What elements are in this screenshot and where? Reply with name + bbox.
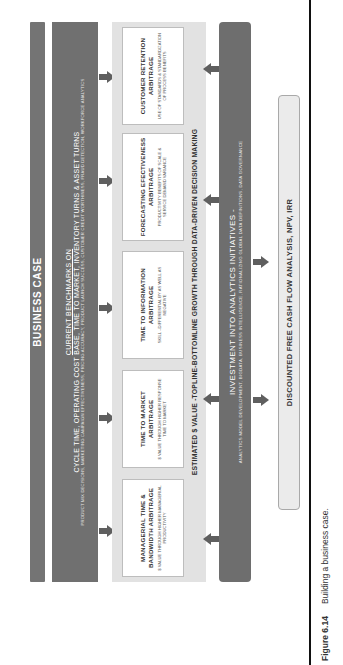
arbitrage-box-customer-retention: CUSTOMER RETENTION ARBITRAGE USE OF STAN…	[122, 27, 184, 125]
arrow-up-icon	[203, 63, 219, 75]
arbitrage-box-title: MANAGERIAL TIME & BANDWIDTH ARBITRAGE	[139, 480, 155, 576]
current-benchmarks-band: CURRENT BENCHMARKS ON CYCLE TIME, OPERAT…	[52, 22, 98, 582]
arbitrage-box-title: FORECASTING EFECTIVENESS ARBITRAGE	[139, 134, 155, 240]
figure-caption-text: Building a business case.	[320, 508, 330, 604]
arrow-up-icon	[203, 393, 219, 405]
dcf-analysis-label: DISCOUNTED FREE CASH FLOW ANALYSIS, NPV,…	[285, 199, 294, 406]
investment-analytics-band: INVESTMENT INTO ANALYTICS INITIATIVES - …	[219, 22, 251, 582]
arbitrage-box-subtitle: USE OF STANDARDS & STANDARDIZATION OF PR…	[157, 28, 168, 124]
arbitrage-box-subtitle: $ VALUE THROUGH HIGHER MANAGERIAL PRODUC…	[157, 480, 168, 576]
benchmarks-heading: CURRENT BENCHMARKS ON	[65, 249, 72, 355]
arbitrage-box-subtitle: $ VALUE THROUGH HIGHER RESPONSE TIME TO …	[157, 371, 168, 467]
benchmarks-analytics-areas: PRODUCT MIX DECISIONS, MARKETING CAMPAIG…	[80, 79, 86, 526]
arrow-up-icon	[203, 533, 219, 545]
arrow-down-icon	[253, 394, 269, 406]
estimated-value-label-row: ESTIMATED $ VALUE -TOPLINE-BOTTOMLINE GR…	[186, 22, 202, 582]
arbitrage-box-time-to-information: TIME TO INFORMATION ARBITRAGE SKILL –DIF…	[122, 251, 184, 359]
caption-rule	[309, 0, 311, 665]
figure-caption: Figure 6.14 Building a business case.	[318, 508, 332, 661]
arbitrage-box-title: CUSTOMER RETENTION ARBITRAGE	[139, 28, 155, 124]
investment-heading: INVESTMENT INTO ANALYTICS INITIATIVES -	[228, 209, 237, 395]
figure-number: Figure 6.14	[320, 616, 330, 661]
business-case-title-band: BUSINESS CASE	[30, 22, 45, 582]
arbitrage-box-title: TIME TO INFORMATION ARBITRAGE	[139, 252, 155, 358]
arbitrage-box-forecasting-effectiveness: FORECASTING EFECTIVENESS ARBITRAGE PRODU…	[122, 133, 184, 241]
investment-detail: ANALYTICS MODEL DEVELOPMENT, BIGDATA, BU…	[238, 141, 243, 464]
arbitrage-box-title: TIME TO MARKET ARBITRAGE	[139, 371, 155, 467]
business-case-title: BUSINESS CASE	[32, 257, 43, 347]
arbitrage-box-subtitle: PRODUCTIVITY BENEFITS OF SCALE & SERVICE…	[157, 134, 168, 240]
arbitrage-box-subtitle: SKILL –DIFFERENTIAL BY AS WELL AS NEGATI…	[157, 252, 168, 358]
estimated-value-label: ESTIMATED $ VALUE -TOPLINE-BOTTOMLINE GR…	[191, 129, 198, 475]
arrow-up-icon	[203, 194, 219, 206]
dcf-analysis-box: DISCOUNTED FREE CASH FLOW ANALYSIS, NPV,…	[278, 95, 300, 510]
arbitrage-box-time-to-market: TIME TO MARKET ARBITRAGE $ VALUE THROUGH…	[122, 370, 184, 468]
benchmarks-primary-metrics: CYCLE TIME, OPERATING COST BASE, TIME TO…	[73, 131, 80, 472]
business-case-diagram: BUSINESS CASE CURRENT BENCHMARKS ON CYCL…	[0, 0, 343, 665]
arbitrage-box-managerial-time: MANAGERIAL TIME & BANDWIDTH ARBITRAGE $ …	[122, 479, 184, 577]
arrow-down-icon	[253, 256, 269, 268]
